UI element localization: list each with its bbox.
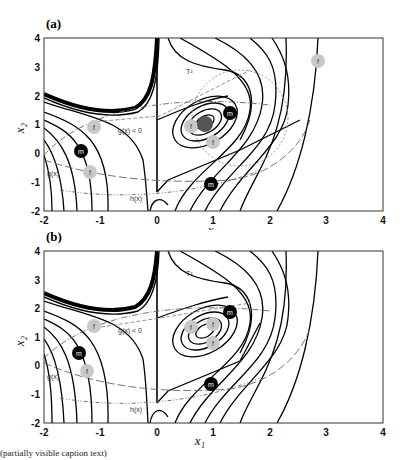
svg-text:2: 2 xyxy=(34,303,40,314)
svg-text:m: m xyxy=(208,381,214,388)
annotation-g-neg-b: g(x) < 0 xyxy=(118,327,142,335)
svg-text:f: f xyxy=(93,124,95,131)
svg-text:1: 1 xyxy=(34,332,40,343)
annotation-h: h(x) xyxy=(130,195,142,203)
svg-text:3: 3 xyxy=(323,427,329,438)
svg-text:f: f xyxy=(212,139,214,146)
y-ticks-b: 4 3 2 1 0 -1 -2 xyxy=(31,246,40,429)
y-ticks-a: 4 3 2 1 0 -1 -2 xyxy=(31,33,40,217)
contour-plot-b: -2 -1 0 1 2 3 4 4 3 2 1 0 -1 -2 x₁ x₂ g(… xyxy=(0,213,404,448)
y-axis-label-b: x₂ xyxy=(12,335,27,347)
annotation-g: g(x) xyxy=(47,170,59,178)
panel-b: (b) xyxy=(0,213,404,448)
x-ticks-b: -2 -1 0 1 2 3 4 xyxy=(40,427,387,438)
annotation-h-b: h(x) xyxy=(130,406,142,414)
x-axis-label-b: x₁ xyxy=(194,433,205,448)
svg-text:3: 3 xyxy=(34,275,40,286)
svg-text:m: m xyxy=(227,110,233,117)
svg-text:m: m xyxy=(76,350,82,357)
svg-text:f: f xyxy=(212,340,214,347)
svg-text:0: 0 xyxy=(34,360,40,371)
svg-text:m: m xyxy=(78,148,84,155)
svg-text:4: 4 xyxy=(34,246,40,257)
annotation-g-neg: g(x) < 0 xyxy=(118,127,142,135)
svg-text:m: m xyxy=(208,181,214,188)
svg-text:-1: -1 xyxy=(31,177,40,188)
svg-text:f: f xyxy=(93,323,95,330)
svg-text:f: f xyxy=(317,58,319,65)
svg-text:f: f xyxy=(89,169,91,176)
svg-text:1: 1 xyxy=(34,119,40,130)
svg-text:0: 0 xyxy=(154,427,160,438)
svg-text:f: f xyxy=(190,324,192,331)
svg-text:2: 2 xyxy=(34,91,40,102)
svg-text:4: 4 xyxy=(34,33,40,44)
svg-text:1: 1 xyxy=(210,427,216,438)
figure-caption: (partially visible caption text) xyxy=(0,448,404,458)
annotation-g-b: g(x) xyxy=(47,373,59,381)
annotation-T: T² xyxy=(186,68,193,75)
annotation-T-b: T² xyxy=(186,270,193,277)
y-axis-label-a: x₂ xyxy=(12,122,27,134)
svg-text:3: 3 xyxy=(34,62,40,73)
svg-text:-1: -1 xyxy=(31,389,40,400)
svg-text:m: m xyxy=(227,309,233,316)
svg-text:f: f xyxy=(190,123,192,130)
svg-text:f: f xyxy=(212,321,214,328)
svg-text:4: 4 xyxy=(380,427,386,438)
contour-plot-a: -2 -1 0 1 2 3 4 4 3 2 1 0 -1 -2 x₁ x₂ g(… xyxy=(0,0,404,230)
svg-text:f: f xyxy=(86,368,88,375)
svg-text:-2: -2 xyxy=(40,427,49,438)
svg-text:2: 2 xyxy=(267,427,273,438)
panel-a: (a) xyxy=(0,0,404,230)
svg-text:-1: -1 xyxy=(96,427,105,438)
svg-text:0: 0 xyxy=(34,148,40,159)
svg-text:-2: -2 xyxy=(31,418,40,429)
